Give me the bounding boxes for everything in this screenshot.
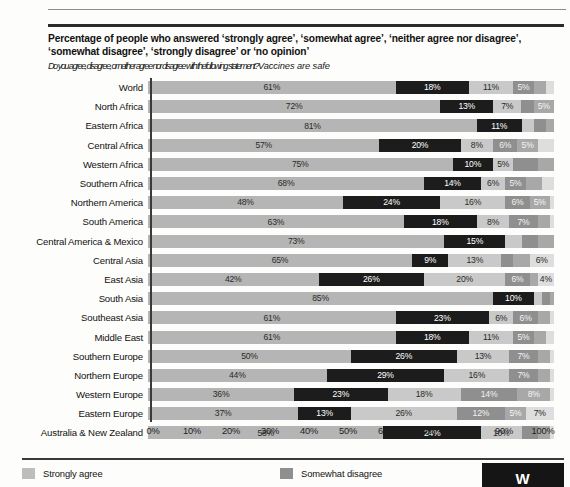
stacked-bar: 36%23%18%14%8% (148, 388, 554, 401)
x-tick-label: 80% (456, 426, 474, 436)
bar-segment: 13% (457, 350, 510, 363)
bar-segment: 6% (530, 254, 554, 267)
top-rule-thin (48, 9, 566, 10)
bar-segment: 26% (351, 350, 457, 363)
bar-segment: 42% (148, 273, 319, 286)
row-label: Eastern Europe (0, 408, 148, 419)
table-row: Northern America48%24%16%6%5% (0, 193, 570, 212)
bar-segment: 11% (469, 331, 514, 344)
table-row: Eastern Europe37%13%26%12%5%7% (0, 404, 570, 423)
bar-segment: 18% (396, 331, 469, 344)
bar-segment: 18% (404, 215, 477, 228)
bar-segment: 26% (351, 407, 457, 420)
table-row: Central Asia65%9%13%6% (0, 251, 570, 270)
bar-segment (542, 292, 550, 305)
bar-segment (521, 100, 533, 113)
stacked-bar: 48%24%16%6%5% (148, 196, 554, 209)
bar-segment (534, 81, 546, 94)
table-row: World61%18%11%5% (0, 78, 570, 97)
row-label: Eastern Africa (0, 120, 148, 131)
legend-label: Strongly agree (43, 468, 103, 479)
legend-item: Somewhat disagree (280, 468, 382, 479)
bar-segment: 16% (440, 196, 505, 209)
bar-segment: 5% (513, 81, 533, 94)
bar-segment (538, 158, 554, 171)
row-label: South America (0, 216, 148, 227)
row-label: Australia & New Zealand (0, 427, 148, 438)
bar-segment: 61% (148, 331, 396, 344)
row-label: Middle East (0, 332, 148, 343)
row-label: World (0, 82, 148, 93)
row-label: North Africa (0, 101, 148, 112)
x-tick-label: 60% (378, 426, 396, 436)
bar-segment (550, 196, 554, 209)
bar-segment: 61% (148, 81, 396, 94)
stacked-bar: 73%15% (148, 235, 554, 248)
x-tick-label: 50% (339, 426, 357, 436)
row-label: Southern Europe (0, 351, 148, 362)
bar-segment: 50% (148, 350, 351, 363)
table-row: East Asia42%26%20%6%4% (0, 270, 570, 289)
x-tick-label: 100% (532, 426, 555, 436)
bar-segment: 8% (517, 388, 549, 401)
legend-swatch (22, 468, 35, 479)
bar-segment: 24% (343, 196, 440, 209)
bar-segment: 18% (396, 81, 469, 94)
stacked-bar: 85%10% (148, 292, 554, 305)
bar-segment: 73% (148, 235, 444, 248)
bar-segment: 6% (505, 196, 529, 209)
bar-segment (505, 235, 521, 248)
table-row: Eastern Africa81%11% (0, 116, 570, 135)
stacked-bar: 72%13%7%5% (148, 100, 554, 113)
bar-segment (546, 119, 554, 132)
bar-segment: 5% (530, 196, 550, 209)
stacked-bar-chart: World61%18%11%5%North Africa72%13%7%5%Ea… (0, 78, 570, 430)
x-tick-label: 10% (183, 426, 201, 436)
bar-segment: 10% (453, 158, 494, 171)
top-rule-thick (48, 24, 564, 27)
bar-segment: 7% (509, 215, 537, 228)
bar-segment: 14% (424, 177, 481, 190)
stacked-bar: 75%10%5% (148, 158, 554, 171)
bar-segment: 11% (477, 119, 522, 132)
bar-segment: 20% (379, 139, 460, 152)
legend-label: Somewhat disagree (301, 468, 382, 479)
stacked-bar: 68%14%6%5% (148, 177, 554, 190)
bar-segment: 7% (526, 407, 554, 420)
bar-segment: 5% (493, 158, 513, 171)
table-row: Western Europe36%23%18%14%8% (0, 385, 570, 404)
bar-segment: 44% (148, 369, 327, 382)
bar-segment: 9% (412, 254, 449, 267)
subtitle-part-c: Vaccines are safe (258, 61, 330, 71)
bar-segment: 8% (477, 215, 509, 228)
bar-segment: 6% (489, 311, 513, 324)
subtitle-part-b: following statement? (205, 61, 258, 71)
bar-segment: 29% (327, 369, 445, 382)
row-label: Central Asia (0, 255, 148, 266)
x-tick-label: 90% (495, 426, 513, 436)
stacked-bar: 37%13%26%12%5%7% (148, 407, 554, 420)
row-label: Southern Africa (0, 178, 148, 189)
table-row: North Africa72%13%7%5% (0, 97, 570, 116)
bar-segment: 6% (505, 273, 529, 286)
table-row: Central America & Mexico73%15% (0, 232, 570, 251)
chart-rows: World61%18%11%5%North Africa72%13%7%5%Ea… (0, 78, 570, 443)
bar-segment: 20% (424, 273, 505, 286)
bar-segment: 48% (148, 196, 343, 209)
x-axis: 0%10%20%30%40%50%60%70%80%90%100% (148, 422, 554, 442)
row-label: Western Africa (0, 159, 148, 170)
bar-segment (546, 81, 554, 94)
row-label: Southeast Asia (0, 312, 148, 323)
bar-segment (550, 388, 554, 401)
stacked-bar: 63%18%8%7% (148, 215, 554, 228)
row-label: Northern Europe (0, 370, 148, 381)
bar-segment: 5% (513, 331, 533, 344)
table-row: Middle East61%18%11%5% (0, 327, 570, 346)
table-row: Southeast Asia61%23%6%6% (0, 308, 570, 327)
bar-segment (538, 311, 550, 324)
stacked-bar: 42%26%20%6%4% (148, 273, 554, 286)
bar-segment (513, 254, 529, 267)
x-tick-label: 40% (300, 426, 318, 436)
bar-segment (542, 177, 554, 190)
bar-segment (538, 215, 550, 228)
